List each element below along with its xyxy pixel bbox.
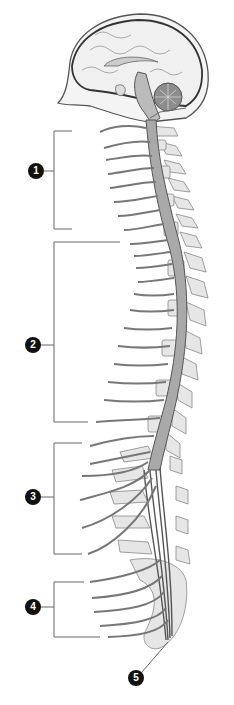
region-marker-1: 1 — [28, 163, 44, 179]
region-marker-3: 3 — [25, 489, 41, 505]
region-marker-4: 4 — [25, 599, 41, 615]
region-marker-2: 2 — [25, 337, 41, 353]
spinal-cord-diagram: 1 2 3 4 5 — [0, 0, 234, 705]
region-marker-5: 5 — [128, 670, 144, 686]
brain-illustration — [58, 14, 208, 124]
